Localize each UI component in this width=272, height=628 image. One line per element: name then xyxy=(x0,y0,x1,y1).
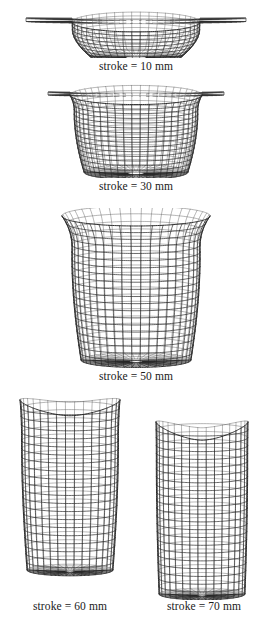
caption-stroke-30: stroke = 30 mm xyxy=(0,180,272,192)
mesh-drawing-stroke-50 xyxy=(0,208,272,368)
mesh-panel-stroke-70 xyxy=(140,414,264,600)
caption-stroke-50: stroke = 50 mm xyxy=(0,370,272,382)
mesh-panel-stroke-10 xyxy=(0,6,272,58)
mesh-visible-lines xyxy=(70,95,202,178)
flange-mesh xyxy=(26,18,246,24)
mesh-visible-lines xyxy=(156,422,248,600)
mesh-hidden-lines xyxy=(62,208,210,362)
mesh-visible-lines xyxy=(20,400,120,576)
mesh-drawing-stroke-30 xyxy=(0,84,272,178)
mesh-drawing-stroke-60 xyxy=(8,392,132,578)
caption-stroke-10: stroke = 10 mm xyxy=(0,60,272,72)
mesh-panel-stroke-30 xyxy=(0,84,272,178)
mesh-drawing-stroke-70 xyxy=(140,414,264,600)
mesh-drawing-stroke-10 xyxy=(0,6,272,58)
caption-stroke-70: stroke = 70 mm xyxy=(136,600,272,612)
caption-stroke-60: stroke = 60 mm xyxy=(2,600,138,612)
flange-mesh xyxy=(48,92,224,97)
mesh-panel-stroke-60 xyxy=(8,392,132,578)
mesh-panel-stroke-50 xyxy=(0,208,272,368)
